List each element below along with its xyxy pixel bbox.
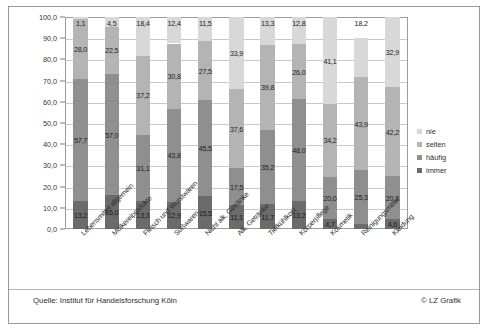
stacked-bar[interactable] bbox=[198, 17, 212, 229]
y-axis-tick-label: 50,0 bbox=[43, 119, 57, 128]
bar-value-label: 57,7 bbox=[74, 135, 87, 144]
chart-legend: nieseltenhäufigimmer bbox=[417, 125, 479, 177]
y-axis-tick-label: 20,0 bbox=[43, 182, 57, 191]
bar-slot: 15,545,527,511,5 bbox=[190, 17, 221, 229]
bar-slot: 11,735,239,813,3 bbox=[252, 17, 283, 229]
bar-value-label: 26,0 bbox=[292, 67, 305, 76]
bar-value-label: 17,5 bbox=[230, 182, 243, 191]
bar-value-label: 12,8 bbox=[292, 19, 305, 28]
y-axis-tick-label: 80,0 bbox=[43, 55, 57, 64]
bar-value-label: 22,5 bbox=[105, 46, 118, 55]
bar-value-label: 35,2 bbox=[261, 162, 274, 171]
bar-value-label: 28,0 bbox=[74, 45, 87, 54]
bar-value-label: 12,4 bbox=[168, 19, 181, 28]
bar-value-label: 48,0 bbox=[292, 146, 305, 155]
legend-swatch-icon bbox=[417, 142, 422, 147]
bar-value-label: 15,5 bbox=[199, 208, 212, 217]
legend-label: häufig bbox=[426, 153, 446, 162]
legend-label: immer bbox=[426, 166, 447, 175]
bar-value-label: 42,2 bbox=[386, 127, 399, 136]
bar-value-label: 11,5 bbox=[199, 19, 212, 28]
legend-swatch-icon bbox=[417, 129, 422, 134]
legend-item[interactable]: selten bbox=[417, 138, 479, 151]
bar-value-label: 43,9 bbox=[355, 119, 368, 128]
y-axis-tick-label: 90,0 bbox=[43, 34, 57, 43]
bar-value-label: 39,8 bbox=[261, 83, 274, 92]
bar-value-label: 20,0 bbox=[323, 193, 336, 202]
source-note: Quelle: Institut für Handelsforschung Kö… bbox=[33, 296, 177, 305]
chart-footer: Quelle: Institut für Handelsforschung Kö… bbox=[9, 289, 479, 323]
legend-swatch-icon bbox=[417, 155, 422, 160]
legend-label: selten bbox=[426, 140, 446, 149]
stacked-bar[interactable] bbox=[292, 17, 306, 229]
bar-value-label: 41,1 bbox=[323, 56, 336, 65]
bar-segment-nie[interactable] bbox=[354, 38, 368, 77]
legend-swatch-icon bbox=[417, 168, 422, 173]
bar-value-label: 34,2 bbox=[323, 136, 336, 145]
y-axis-tick-label: 60,0 bbox=[43, 97, 57, 106]
y-axis-tick-label: 30,0 bbox=[43, 161, 57, 170]
bar-value-label: 27,5 bbox=[199, 66, 212, 75]
bar-value-label: 57,0 bbox=[105, 130, 118, 139]
bar-value-label: 13,3 bbox=[261, 19, 274, 28]
legend-item[interactable]: häufig bbox=[417, 151, 479, 164]
y-axis-tick-label: 40,0 bbox=[43, 140, 57, 149]
y-axis-tick-label: 10,0 bbox=[43, 203, 57, 212]
bar-value-label: 18,4 bbox=[136, 19, 149, 28]
bar-slot: 4,720,034,241,1 bbox=[314, 17, 345, 229]
bar-value-label: 4,5 bbox=[107, 19, 116, 28]
bar-value-label: 37,2 bbox=[136, 91, 149, 100]
bar-slot: 13,257,728,01,1 bbox=[65, 17, 96, 229]
bar-value-label: 30,8 bbox=[168, 72, 181, 81]
bar-value-label: 45,5 bbox=[199, 143, 212, 152]
bar-value-label: 25,3 bbox=[355, 192, 368, 201]
credit-note: © LZ Grafik bbox=[421, 296, 461, 305]
y-axis-tick-label: 0,0 bbox=[47, 225, 57, 234]
bar-value-label: 32,9 bbox=[386, 48, 399, 57]
y-axis: 0,010,020,030,040,050,060,070,080,090,01… bbox=[19, 17, 65, 229]
stacked-bar[interactable] bbox=[260, 17, 274, 229]
chart-figure: 0,010,020,030,040,050,060,070,080,090,01… bbox=[8, 6, 480, 324]
legend-item[interactable]: immer bbox=[417, 164, 479, 177]
footer-divider bbox=[9, 289, 479, 290]
bar-value-label: 43,8 bbox=[168, 151, 181, 160]
legend-label: nie bbox=[426, 127, 436, 136]
bar-value-label: 37,6 bbox=[230, 124, 243, 133]
bar-value-label: 33,9 bbox=[230, 48, 243, 57]
bar-value-label: 1,1 bbox=[76, 19, 85, 28]
bar-slot: 25,343,918,2 bbox=[346, 17, 377, 229]
bar-value-label: 31,1 bbox=[136, 163, 149, 172]
bar-slot: 13,248,026,012,8 bbox=[283, 17, 314, 229]
bar-value-label: 18,2 bbox=[355, 19, 368, 28]
y-axis-tick-label: 70,0 bbox=[43, 76, 57, 85]
y-axis-tick-label: 100,0 bbox=[39, 13, 57, 22]
legend-item[interactable]: nie bbox=[417, 125, 479, 138]
bar-value-label: 13,2 bbox=[74, 211, 87, 220]
